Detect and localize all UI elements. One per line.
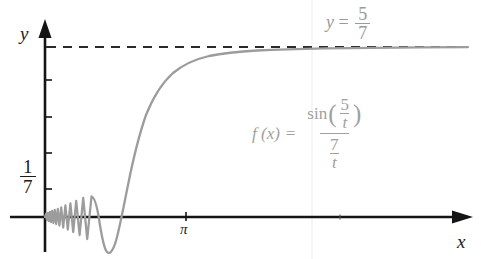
inner-numerator: 5 xyxy=(339,96,352,113)
x-tick-label-pi: π xyxy=(180,222,188,237)
function-annotation: f (x) = sin ( 5 t ) 7 t xyxy=(252,96,367,171)
plot-svg xyxy=(0,0,481,259)
asymptote-denominator: 7 xyxy=(355,23,370,42)
asymptote-lhs: y xyxy=(326,12,334,32)
function-numerator: sin ( 5 t ) xyxy=(301,96,367,133)
x-axis-arrow-icon xyxy=(452,211,473,224)
figure-canvas: y x π 1 7 y = 5 7 f (x) = sin ( 5 t xyxy=(0,0,481,259)
x-axis-label: x xyxy=(457,232,465,251)
y-axis-arrow-icon xyxy=(39,19,52,38)
function-lhs: f (x) xyxy=(252,125,280,142)
outer-denominator-fraction: 7 t xyxy=(328,136,341,172)
close-paren: ) xyxy=(353,104,361,124)
asymptote-annotation: y = 5 7 xyxy=(326,5,372,43)
asymptote-equals: = xyxy=(339,12,349,32)
function-fraction: sin ( 5 t ) 7 t xyxy=(301,96,367,171)
one-seventh-numerator: 1 xyxy=(20,157,36,176)
asymptote-numerator: 5 xyxy=(355,5,370,23)
y-tick-label-one-seventh: 1 7 xyxy=(18,157,38,197)
open-paren: ( xyxy=(328,104,336,124)
outer-denominator-denominator: t xyxy=(330,153,339,171)
one-seventh-denominator: 7 xyxy=(20,176,36,196)
y-axis-label: y xyxy=(20,24,28,43)
function-equals: = xyxy=(285,125,296,142)
outer-denominator-numerator: 7 xyxy=(328,136,341,153)
sin-text: sin xyxy=(307,105,327,123)
function-denominator: 7 t xyxy=(320,133,349,172)
inner-fraction: 5 t xyxy=(339,96,352,132)
inner-denominator: t xyxy=(340,113,349,131)
